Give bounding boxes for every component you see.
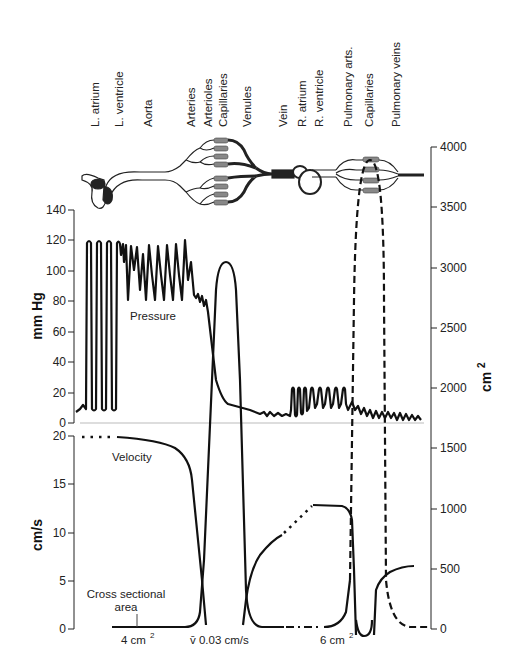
svg-text:20: 20 — [53, 429, 67, 443]
svg-text:6 cm: 6 cm — [320, 634, 345, 646]
label-venules: Venules — [241, 86, 253, 127]
cross-sectional-area-series — [112, 160, 428, 636]
pressure-ticks: 140 120 100 80 60 40 20 0 — [46, 203, 66, 430]
svg-text:4 cm: 4 cm — [121, 634, 146, 646]
svg-text:80: 80 — [53, 294, 67, 308]
label-r-ventricle: R. ventricle — [313, 69, 325, 127]
svg-text:20: 20 — [53, 386, 67, 400]
svg-text:2: 2 — [150, 631, 155, 640]
label-capillaries: Capillaries — [217, 73, 229, 127]
label-l-ventricle: L. ventricle — [113, 71, 125, 127]
svg-text:1500: 1500 — [440, 441, 467, 455]
svg-text:2: 2 — [476, 362, 487, 368]
label-vein: Vein — [277, 105, 289, 127]
velocity-axis-title: cm/s — [29, 519, 45, 551]
vessel-diagram — [82, 138, 424, 208]
svg-text:15: 15 — [53, 477, 67, 491]
pressure-series — [76, 240, 421, 420]
pressure-axis-title: mm Hg — [29, 292, 45, 339]
label-aorta: Aorta — [142, 99, 154, 127]
svg-text:2500: 2500 — [440, 321, 467, 335]
svg-text:0: 0 — [59, 416, 66, 430]
label-arterioles: Arterioles — [202, 78, 214, 127]
svg-text:3500: 3500 — [440, 200, 467, 214]
svg-text:5: 5 — [59, 574, 66, 588]
csa-label-line1: Cross sectional — [87, 588, 166, 600]
velocity-label: Velocity — [112, 451, 152, 463]
label-arteries: Arteries — [185, 87, 197, 127]
svg-text:0: 0 — [59, 622, 66, 636]
svg-text:40: 40 — [53, 355, 67, 369]
annotation-6cm: 6 cm 2 — [320, 631, 354, 646]
svg-text:60: 60 — [53, 325, 67, 339]
annotation-velocity-min: v̄ 0.03 cm/s — [190, 634, 249, 646]
svg-text:100: 100 — [46, 264, 66, 278]
velocity-axis — [68, 436, 74, 629]
velocity-ticks: 20 15 10 5 0 — [53, 429, 67, 636]
systemic-capillaries — [214, 138, 228, 205]
svg-text:140: 140 — [46, 203, 66, 217]
svg-text:1000: 1000 — [440, 502, 467, 516]
circulation-chart: L. atrium L. ventricle Aorta Arteries Ar… — [0, 0, 513, 670]
vein-icon — [272, 170, 294, 178]
svg-text:2000: 2000 — [440, 381, 467, 395]
area-axis — [431, 147, 437, 629]
vessel-labels: L. atrium L. ventricle Aorta Arteries Ar… — [89, 42, 402, 127]
label-pulmonary-arts: Pulmonary arts. — [342, 46, 354, 127]
csa-label-line2: area — [114, 601, 138, 613]
pressure-axis — [68, 210, 74, 423]
l-atrium-icon — [91, 179, 105, 189]
label-l-atrium: L. atrium — [89, 82, 101, 127]
svg-text:0: 0 — [440, 622, 447, 636]
pressure-label: Pressure — [130, 310, 176, 322]
svg-text:120: 120 — [46, 233, 66, 247]
svg-text:500: 500 — [440, 562, 460, 576]
label-r-atrium: R. atrium — [296, 80, 308, 127]
svg-text:cm: cm — [478, 372, 494, 392]
svg-text:4000: 4000 — [440, 140, 467, 154]
label-pulmonary-veins: Pulmonary veins — [390, 42, 402, 127]
svg-text:10: 10 — [53, 526, 67, 540]
label-pulmonary-capillaries: Capillaries — [363, 73, 375, 127]
svg-text:2: 2 — [349, 631, 354, 640]
area-ticks: 4000 3500 3000 2500 2000 1500 1000 500 0 — [440, 140, 467, 636]
annotation-4cm: 4 cm 2 — [121, 631, 155, 646]
svg-text:3000: 3000 — [440, 261, 467, 275]
area-axis-title: cm 2 — [476, 362, 494, 392]
